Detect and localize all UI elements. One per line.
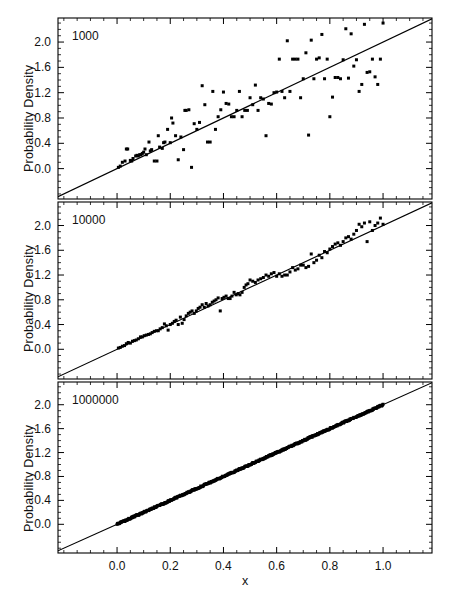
data-point: [275, 451, 278, 454]
data-point: [193, 487, 196, 490]
data-point: [379, 404, 382, 407]
data-point: [300, 440, 303, 443]
data-point: [218, 477, 221, 480]
data-point: [235, 469, 238, 472]
data-point: [142, 511, 145, 514]
data-point: [284, 448, 287, 451]
data-point: [343, 421, 346, 424]
data-point: [237, 468, 240, 471]
data-point: [137, 514, 140, 517]
data-point: [288, 445, 291, 448]
data-point: [159, 327, 162, 330]
data-point: [294, 442, 297, 445]
data-point: [199, 485, 202, 488]
data-point: [286, 39, 289, 42]
data-point: [307, 134, 310, 137]
data-point: [197, 307, 200, 310]
data-point: [342, 58, 345, 61]
data-point: [358, 414, 361, 417]
data-point: [221, 297, 224, 300]
data-point: [230, 472, 233, 475]
panel-3-data: [58, 383, 432, 551]
data-point: [234, 470, 237, 473]
data-point: [179, 494, 182, 497]
data-point: [364, 411, 367, 414]
data-point: [346, 419, 349, 422]
data-point: [237, 468, 240, 471]
data-point: [251, 103, 254, 106]
y-tick-label: 1.6: [34, 422, 51, 436]
data-point: [324, 429, 327, 432]
data-point: [116, 523, 119, 526]
data-point: [336, 76, 339, 79]
data-point: [368, 409, 371, 412]
data-point: [265, 456, 268, 459]
data-point: [352, 65, 355, 68]
data-point: [157, 329, 160, 332]
data-point: [122, 520, 125, 523]
data-point: [331, 245, 334, 248]
data-point: [380, 404, 383, 407]
data-point: [244, 465, 247, 468]
data-point: [382, 403, 385, 406]
data-point: [292, 444, 295, 447]
data-point: [216, 477, 219, 480]
data-point: [148, 508, 151, 511]
data-point: [214, 128, 217, 131]
data-point: [201, 303, 204, 306]
data-point: [195, 309, 198, 312]
data-point: [378, 404, 381, 407]
data-point: [382, 22, 385, 25]
data-point: [379, 404, 382, 407]
data-point: [338, 423, 341, 426]
data-point: [128, 518, 131, 521]
data-point: [213, 480, 216, 483]
data-point: [307, 436, 310, 439]
data-point: [215, 298, 218, 301]
data-point: [254, 281, 257, 284]
data-point: [128, 518, 131, 521]
data-point: [320, 431, 323, 434]
data-point: [239, 468, 242, 471]
data-point: [129, 517, 132, 520]
data-point: [170, 499, 173, 502]
data-point: [339, 422, 342, 425]
data-point: [294, 442, 297, 445]
data-point: [355, 415, 358, 418]
data-point: [137, 337, 140, 340]
data-point: [265, 274, 268, 277]
data-point: [275, 450, 278, 453]
data-point: [243, 286, 246, 289]
data-point: [334, 424, 337, 427]
data-point: [252, 462, 255, 465]
data-point: [344, 419, 347, 422]
data-point: [257, 109, 260, 112]
data-point: [347, 235, 350, 238]
x-tick-label: 0.0: [109, 559, 126, 573]
panel-2-sample-label: 10000: [72, 213, 106, 227]
y-tick-label: 1.2: [34, 268, 51, 282]
data-point: [125, 148, 128, 151]
data-point: [157, 504, 160, 507]
y-tick-label: 0.0: [34, 342, 51, 356]
data-point: [227, 297, 230, 300]
data-point: [312, 77, 315, 80]
data-point: [190, 166, 193, 169]
data-point: [371, 58, 374, 61]
data-point: [159, 503, 162, 506]
data-point: [318, 431, 321, 434]
data-point: [119, 520, 122, 523]
data-point: [264, 457, 267, 460]
data-point: [267, 102, 270, 105]
data-point: [340, 422, 343, 425]
data-point: [202, 484, 205, 487]
data-point: [124, 519, 127, 522]
data-point: [368, 409, 371, 412]
data-point: [299, 96, 302, 99]
data-point: [125, 342, 128, 345]
data-point: [236, 469, 239, 472]
data-point: [165, 501, 168, 504]
data-point: [246, 465, 249, 468]
data-point: [321, 430, 324, 433]
data-point: [367, 411, 370, 414]
